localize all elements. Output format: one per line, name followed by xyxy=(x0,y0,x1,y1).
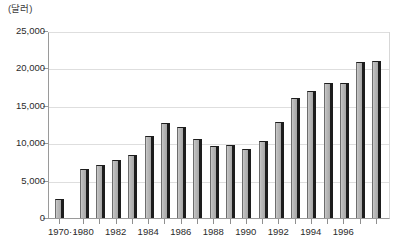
bar-chart: (달러) 05,00010,00015,00020,00025,000 1970… xyxy=(0,0,397,246)
x-axis-tick-label: 1996 xyxy=(323,226,363,237)
bar xyxy=(145,136,154,218)
x-axis-tick-mark xyxy=(181,219,182,224)
bar xyxy=(340,83,349,218)
bar xyxy=(112,160,121,218)
bar xyxy=(356,62,365,218)
x-axis-tick-mark xyxy=(59,219,60,224)
bar xyxy=(275,122,284,218)
y-axis-unit-label: (달러) xyxy=(8,3,32,14)
x-axis-tick-mark xyxy=(246,219,247,224)
bar xyxy=(128,155,137,218)
y-axis-tick-label: 10,000 xyxy=(16,138,45,148)
axis-break-marker: ··· xyxy=(69,226,82,237)
x-axis-tick-mark xyxy=(83,219,84,224)
x-axis-tick-mark xyxy=(262,219,263,224)
bar xyxy=(291,98,300,218)
plot-area xyxy=(48,32,390,219)
x-axis-tick-mark xyxy=(295,219,296,224)
x-axis-tick-mark xyxy=(197,219,198,224)
x-axis-tick-mark xyxy=(311,219,312,224)
gridline xyxy=(49,69,389,70)
x-axis-tick-mark xyxy=(360,219,361,224)
gridline xyxy=(49,107,389,108)
bar xyxy=(372,61,381,218)
y-axis-tick-label: 0 xyxy=(40,213,45,223)
x-axis-tick-mark xyxy=(376,219,377,224)
x-axis-tick-mark xyxy=(116,219,117,224)
x-axis-tick-mark xyxy=(278,219,279,224)
gridline xyxy=(49,144,389,145)
bar xyxy=(177,127,186,218)
x-axis-tick-mark xyxy=(164,219,165,224)
x-axis-tick-mark xyxy=(343,219,344,224)
bar xyxy=(307,91,316,218)
y-axis-tick-label: 15,000 xyxy=(16,101,45,111)
x-axis-tick-mark xyxy=(148,219,149,224)
bar xyxy=(210,146,219,218)
x-axis-tick-mark xyxy=(327,219,328,224)
bar xyxy=(226,145,235,218)
bar xyxy=(161,123,170,218)
bar xyxy=(193,139,202,218)
x-axis-tick-mark xyxy=(99,219,100,224)
y-axis-tick-label: 25,000 xyxy=(16,26,45,36)
y-axis-tick-label: 20,000 xyxy=(16,63,45,73)
bar xyxy=(259,141,268,218)
y-axis-tick-label: 5,000 xyxy=(21,176,45,186)
x-axis-tick-mark xyxy=(132,219,133,224)
bar xyxy=(96,165,105,218)
x-axis-tick-mark xyxy=(230,219,231,224)
gridline xyxy=(49,32,389,33)
bar xyxy=(324,83,333,218)
bar xyxy=(55,199,64,218)
bar xyxy=(242,149,251,218)
bar xyxy=(80,169,89,218)
x-axis-tick-mark xyxy=(213,219,214,224)
